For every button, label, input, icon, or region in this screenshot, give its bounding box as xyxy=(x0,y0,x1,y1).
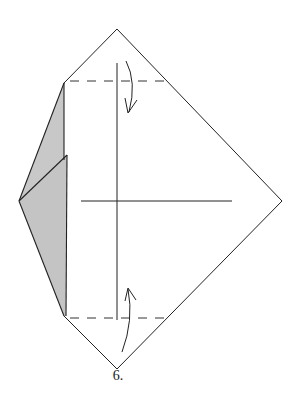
shaded-flaps xyxy=(19,83,67,316)
origami-diagram xyxy=(0,0,296,406)
bottom-fold-arrow-icon xyxy=(122,288,136,352)
step-number-label: 6. xyxy=(104,368,132,384)
lower-shaded-flap xyxy=(19,155,67,316)
paper-outline xyxy=(64,29,282,369)
top-fold-arrow-icon xyxy=(125,61,137,113)
